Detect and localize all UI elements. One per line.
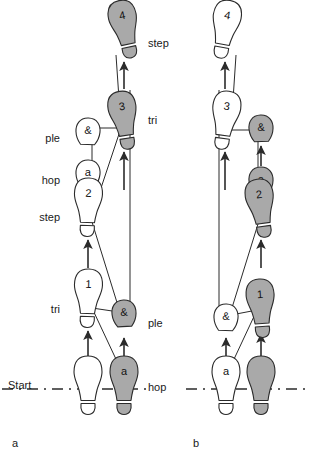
foot-b-2: 2 (243, 177, 279, 239)
foot-b-4-heel (213, 46, 229, 59)
foot-a-1: 1 (73, 269, 103, 328)
foot-a-2: 2 (73, 178, 103, 237)
foot-b-a-start-label: a (223, 365, 230, 377)
panel-caption-b: b (193, 437, 199, 449)
foot-a-amp-top-label: & (84, 124, 92, 136)
foot-a-start-open-heel (81, 404, 95, 415)
panel-caption-a: a (12, 437, 18, 449)
foot-b-4-sole (209, 0, 244, 47)
foot-a-2-sole (73, 178, 103, 223)
foot-b-2-heel (257, 225, 273, 238)
foot-a-1-heel (80, 316, 95, 327)
foot-b-start-shaded-sole (247, 356, 275, 401)
foot-a-start-open-sole (74, 356, 102, 401)
foot-b-1: 1 (245, 278, 277, 338)
foot-a-a-start-heel (117, 404, 131, 415)
foot-a-a-start: a (110, 356, 138, 415)
foot-b-1-label: 1 (257, 288, 264, 300)
foot-a-1-label: 1 (85, 278, 92, 290)
start-label-a: Start (8, 380, 31, 391)
foot-b-amp-low: & (213, 304, 238, 331)
foot-a-1-sole (73, 269, 103, 314)
phase-label-left-a-0: ple (20, 133, 60, 144)
foot-b-start-shaded-heel (254, 404, 268, 415)
foot-a-3: 3 (106, 89, 143, 151)
foot-b-amp-top: & (249, 115, 274, 142)
foot-a-start-open (74, 356, 102, 415)
foot-a-3-sole (106, 89, 141, 137)
phase-label-left-a-1: hop (20, 175, 60, 186)
footprint-sequence-figure: 43&a21&a43&a21&aplehopsteptristeptripleh… (0, 0, 312, 452)
foot-a-a-start-sole (110, 356, 138, 401)
foot-b-amp-top-label: & (257, 121, 265, 133)
phase-label-right-a-3: hop (148, 382, 166, 393)
foot-b-start-shaded (247, 356, 275, 415)
foot-a-amp-low: & (111, 299, 136, 327)
foot-b-amp-low-label: & (222, 310, 230, 322)
foot-b-4: 4 (206, 0, 244, 60)
phase-label-left-a-3: tri (20, 304, 60, 315)
foot-b-a-start: a (212, 356, 240, 415)
foot-b-1-heel (255, 326, 270, 338)
foot-a-2-label: 2 (85, 187, 92, 199)
foot-a-3-heel (120, 137, 136, 150)
foot-b-1-sole (245, 278, 276, 324)
phase-label-right-a-1: tri (148, 115, 157, 126)
foot-b-a-start-heel (219, 404, 233, 415)
foot-b-3-heel (214, 137, 230, 150)
phase-label-right-a-2: ple (148, 318, 163, 329)
phase-label-left-a-2: step (20, 212, 60, 223)
foot-a-2-heel (80, 225, 95, 236)
foot-a-a-start-label: a (121, 365, 128, 377)
foot-a-4-heel (122, 46, 138, 60)
panel-a: 43&a21&a (2, 0, 150, 414)
foot-b-a-start-sole (212, 356, 240, 401)
panel-b: 43&a21&a (186, 0, 310, 415)
foot-a-4-sole (105, 0, 142, 47)
phase-label-right-a-0: step (148, 38, 169, 49)
foot-b-3: 3 (207, 89, 243, 151)
foot-a-4: 4 (105, 0, 145, 61)
foot-a-amp-low-label: & (120, 306, 129, 318)
foot-a-amp-top: & (75, 118, 100, 145)
